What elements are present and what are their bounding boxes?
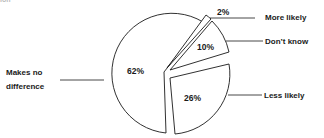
label-more-likely: More likely	[265, 13, 307, 22]
label-makes-no-difference-line1: Makes no	[6, 68, 43, 77]
value-more-likely: 2%	[217, 7, 230, 17]
label-less-likely: Less likely	[264, 91, 305, 100]
pie-chart: 62% 2% 10% 26% Makes no difference More …	[0, 0, 324, 138]
label-dont-know: Don’t know	[265, 37, 309, 46]
label-makes-no-difference-line2: difference	[6, 82, 45, 91]
value-dont-know: 10%	[197, 42, 214, 52]
value-less-likely: 26%	[184, 93, 201, 103]
value-makes-no-difference: 62%	[127, 66, 144, 76]
